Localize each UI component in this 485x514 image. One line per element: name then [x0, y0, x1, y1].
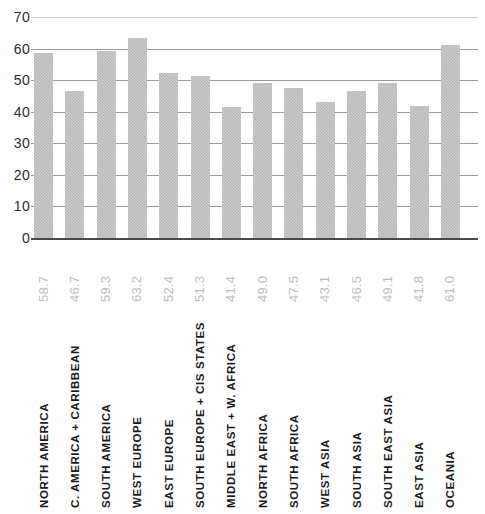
value-label: 51.3 [191, 256, 209, 302]
value-label: 63.2 [128, 256, 146, 302]
bar [378, 83, 397, 238]
plot-area: 706050403020100 [0, 0, 485, 250]
value-label: 49.1 [379, 256, 397, 302]
bar [191, 76, 210, 238]
y-axis-tick-labels: 706050403020100 [0, 0, 30, 250]
y-tick-label-0: 0 [2, 231, 30, 245]
category-label: WEST ASIA [315, 308, 335, 508]
bar [316, 102, 335, 238]
bar [65, 91, 84, 238]
y-tick-label-10: 10 [2, 199, 30, 213]
value-label: 46.5 [348, 256, 366, 302]
bars-container [31, 0, 478, 250]
bar [222, 107, 241, 238]
value-labels-container: 58.746.759.363.252.451.341.449.047.543.1… [31, 256, 478, 304]
y-tick-label-40: 40 [2, 105, 30, 119]
category-label: EAST EUROPE [159, 308, 179, 508]
category-label: SOUTH ASIA [347, 308, 367, 508]
category-label: SOUTH AFRICA [284, 308, 304, 508]
value-label: 46.7 [66, 256, 84, 302]
value-label: 61.0 [441, 256, 459, 302]
bar [284, 88, 303, 238]
value-label: 43.1 [316, 256, 334, 302]
bar [159, 73, 178, 238]
bar [253, 83, 272, 238]
value-label: 41.8 [410, 256, 428, 302]
category-label: SOUTH EAST ASIA [378, 308, 398, 508]
category-label: C. AMERICA + CARIBBEAN [65, 308, 85, 508]
y-tick-label-60: 60 [2, 42, 30, 56]
y-tick-label-70: 70 [2, 10, 30, 24]
category-label: MIDDLE EAST + W. AFRICA [221, 308, 241, 508]
bar [128, 38, 147, 238]
bar [410, 106, 429, 238]
y-tick-label-50: 50 [2, 73, 30, 87]
value-label: 47.5 [285, 256, 303, 302]
y-tick-label-20: 20 [2, 168, 30, 182]
bar [441, 45, 460, 238]
category-label: SOUTH EUROPE + CIS STATES [190, 308, 210, 508]
bar [34, 53, 53, 238]
bar-chart: 706050403020100 58.746.759.363.252.451.3… [0, 0, 485, 514]
category-label: WEST EUROPE [127, 308, 147, 508]
category-label: OCEANIA [440, 308, 460, 508]
category-label: EAST ASIA [409, 308, 429, 508]
value-label: 41.4 [222, 256, 240, 302]
category-label: NORTH AFRICA [253, 308, 273, 508]
value-label: 49.0 [254, 256, 272, 302]
value-label: 58.7 [35, 256, 53, 302]
y-tick-label-30: 30 [2, 136, 30, 150]
bar [347, 91, 366, 238]
category-labels-container: NORTH AMERICAC. AMERICA + CARIBBEANSOUTH… [31, 308, 478, 514]
value-label: 59.3 [97, 256, 115, 302]
category-label: NORTH AMERICA [34, 308, 54, 508]
category-label: SOUTH AMERICA [96, 308, 116, 508]
bar [97, 51, 116, 238]
value-label: 52.4 [160, 256, 178, 302]
